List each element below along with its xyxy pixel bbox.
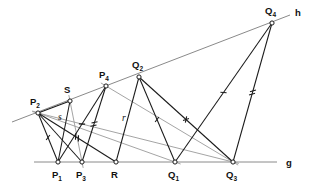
- point-label-P4: P4: [99, 69, 109, 82]
- segment-Q3-Q4: [233, 23, 272, 162]
- segment-R-Q2: [116, 77, 139, 162]
- segment-label-label-r: r: [122, 113, 126, 123]
- segment-P2-R: [38, 113, 116, 162]
- segment-label-label-s: s: [58, 112, 62, 122]
- point-label-Q2: Q2: [132, 59, 143, 72]
- point-label-R: R: [111, 169, 118, 180]
- tick-mark: [249, 93, 255, 95]
- tick-mark: [91, 122, 97, 123]
- point-Q2: [137, 75, 141, 79]
- line-label-h: h: [295, 7, 301, 18]
- segment-P2-S: [38, 101, 70, 113]
- point-label-Q3: Q3: [226, 169, 237, 182]
- tick-mark: [250, 90, 256, 92]
- construction-diagram: ghP1P2P3P4Q1Q2Q3Q4RSsr: [0, 0, 317, 188]
- point-P1: [56, 160, 60, 164]
- point-P4: [104, 84, 108, 88]
- construction-lines-group: [32, 83, 239, 168]
- tick-marks-group: [46, 90, 256, 141]
- point-label-P1: P1: [52, 169, 62, 182]
- point-label-P3: P3: [76, 169, 86, 182]
- segments-group: [38, 23, 272, 162]
- point-Q1: [173, 160, 177, 164]
- point-R: [114, 160, 118, 164]
- point-label-S: S: [64, 84, 70, 95]
- labels-group: ghP1P2P3P4Q1Q2Q3Q4RSsr: [30, 5, 301, 182]
- point-label-P2: P2: [30, 96, 40, 109]
- point-Q4: [270, 21, 274, 25]
- construction-line-par-4: [101, 83, 238, 165]
- point-label-Q1: Q1: [168, 169, 179, 182]
- tick-mark: [90, 125, 96, 126]
- construction-line-par-3: [69, 95, 83, 168]
- geometric-figure: ghP1P2P3P4Q1Q2Q3Q4RSsr: [0, 0, 317, 188]
- tick-mark: [46, 135, 50, 140]
- point-P3: [80, 160, 84, 164]
- segment-P3-P4: [82, 86, 106, 162]
- point-S: [68, 99, 72, 103]
- point-label-Q4: Q4: [265, 5, 276, 18]
- line-label-g: g: [286, 157, 292, 168]
- point-P2: [36, 111, 40, 115]
- point-Q3: [231, 160, 235, 164]
